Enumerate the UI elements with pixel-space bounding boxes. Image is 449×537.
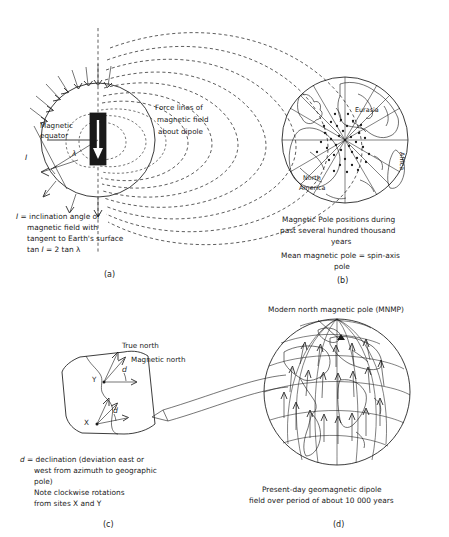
panel-a-label: (a) [104, 270, 115, 279]
site-y-label: Y [91, 375, 97, 384]
field-arrow [335, 373, 341, 399]
field-arrow [293, 402, 299, 430]
panel-b-caption-line5: pole [334, 262, 350, 271]
africa-label: Africa [398, 152, 406, 170]
panel-a: Magnetic equator λ I Force lines of magn… [16, 28, 362, 279]
surface-arrow [43, 181, 56, 197]
panel-b: Eurasia North America Africa Magnetic Po… [280, 77, 408, 285]
north-america-label-line2: America [299, 184, 325, 192]
field-arrow [333, 345, 339, 367]
figure-root: Magnetic equator λ I Force lines of magn… [0, 0, 449, 537]
panel-b-caption-line3: years [331, 237, 351, 246]
force-lines-label-line2: magnetic field [157, 115, 209, 124]
surface-arrow [36, 96, 54, 112]
magnetic-north-label: Magnetic north [131, 355, 185, 364]
surface-arrow [58, 76, 69, 94]
panel-c-caption-line2: west from azimuth to geographic [34, 466, 157, 475]
surface-arrow [46, 84, 61, 101]
panel-b-caption-line4: Mean magnetic pole = spin-axis [281, 251, 400, 260]
force-lines-label-line1: Force lines of [155, 103, 203, 112]
panel-d: Modern north magnetic pole (MNMP) Presen… [249, 305, 410, 529]
field-lines-dashed [66, 33, 362, 245]
site-x-label: X [84, 418, 89, 427]
field-arrow [335, 416, 341, 444]
panel-c: Y d X d True north Magnetic north d = de… [20, 341, 288, 529]
panel-c-label: (c) [103, 520, 114, 529]
field-arrow [363, 408, 369, 436]
patch-coastline [86, 356, 118, 434]
panel-d-caption-line2: field over period of about 10 000 years [249, 496, 394, 505]
field-arrow [363, 339, 370, 360]
geomagnetic-field-arrows [281, 339, 384, 444]
magnetic-equator-label-line1: Magnetic [40, 121, 73, 130]
field-arrow [377, 398, 383, 426]
field-arrow [321, 414, 327, 442]
surface-arrow [66, 194, 76, 213]
lambda-label: λ [71, 149, 77, 158]
true-north-label: True north [121, 341, 159, 350]
surface-arrow [84, 67, 93, 86]
panel-c-caption-line3: pole) [34, 477, 53, 486]
panel-c-caption-line1: d = declination (deviation east or [20, 455, 145, 464]
field-arrow [320, 372, 326, 398]
panel-d-caption-line1: Present-day geomagnetic dipole [262, 485, 382, 494]
panel-b-label: (b) [337, 276, 348, 285]
field-arrow [281, 392, 287, 418]
mnmp-label: Modern north magnetic pole (MNMP) [268, 305, 404, 314]
panel-b-caption-line2: past several hundred thousand [280, 226, 396, 235]
panel-a-caption-line3: tangent to Earth's surface [27, 234, 124, 243]
declination-x-label: d [113, 406, 118, 415]
declination-y-label: d [122, 365, 127, 374]
field-arrow [317, 344, 323, 366]
dipole-bar-magnet [90, 113, 106, 165]
panel-a-caption-line1: I = inclination angle of [16, 212, 100, 221]
north-america-label-line1: North [303, 174, 321, 182]
eurasia-label: Eurasia [355, 106, 379, 114]
panel-a-caption-line4: tan I = 2 tan λ [27, 245, 81, 254]
panel-a-caption-line2: magnetic field with [27, 223, 98, 232]
field-arrow [307, 410, 313, 438]
force-lines-label-line3: about dipole [158, 127, 204, 136]
site-x-vectors [96, 398, 129, 426]
panel-c-caption-line5: from sites X and Y [34, 499, 102, 508]
magnetic-equator-label-line2: equator [40, 131, 68, 140]
panel-b-caption-line1: Magnetic Pole positions during [282, 215, 395, 224]
panel-d-label: (d) [333, 520, 344, 529]
inclination-label: I [25, 153, 28, 162]
mnmp-leader-line [318, 320, 339, 339]
surface-arrow [94, 64, 102, 86]
surface-arrow [72, 70, 82, 89]
panel-c-caption-line4: Note clockwise rotations [34, 488, 125, 497]
